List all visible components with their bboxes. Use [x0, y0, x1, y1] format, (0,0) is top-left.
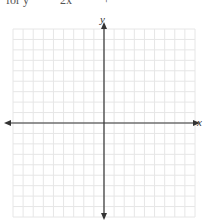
- x-axis-label: x: [197, 116, 202, 128]
- coordinate-grid: [0, 0, 208, 224]
- x-axis-left-arrow-icon: [4, 120, 11, 126]
- y-axis-label: y: [100, 13, 105, 25]
